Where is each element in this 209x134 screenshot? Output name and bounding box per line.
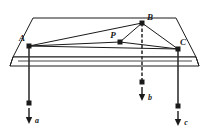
diagram-canvas: A B C P a b c bbox=[0, 0, 209, 134]
vector-label-a: a bbox=[35, 116, 39, 125]
vertex-dot-C bbox=[176, 47, 181, 52]
force-vector-b: b bbox=[139, 80, 152, 103]
vector-b-stem-cap bbox=[140, 80, 145, 85]
vector-label-b: b bbox=[148, 93, 152, 102]
force-vector-a: a bbox=[26, 101, 39, 126]
vertex-dot-A bbox=[27, 44, 32, 49]
plate-front-band bbox=[10, 57, 199, 66]
point-label-P: P bbox=[110, 30, 116, 40]
force-vector-c: c bbox=[175, 104, 188, 128]
vector-a-stem-cap bbox=[27, 101, 32, 106]
point-label-C: C bbox=[180, 37, 187, 47]
point-label-B: B bbox=[146, 12, 153, 22]
vector-c-arrowhead bbox=[175, 119, 181, 126]
rigid-plate-force-diagram: A B C P a b c bbox=[0, 0, 209, 134]
point-label-A: A bbox=[18, 33, 25, 43]
vector-b-arrowhead bbox=[139, 94, 145, 101]
vector-a-arrowhead bbox=[26, 117, 32, 124]
vertex-dot-P bbox=[118, 40, 123, 45]
vector-c-stem-cap bbox=[176, 104, 181, 109]
vector-label-c: c bbox=[184, 118, 188, 127]
plate-top-face bbox=[13, 18, 196, 57]
vertex-dot-B bbox=[140, 21, 145, 26]
